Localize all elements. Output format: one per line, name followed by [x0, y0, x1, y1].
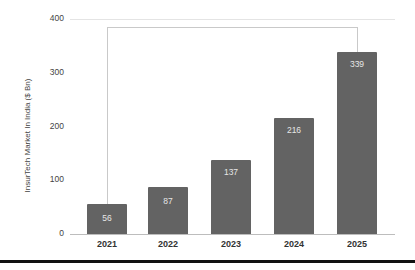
- bar-value-label: 216: [274, 125, 314, 135]
- bar-value-label: 137: [211, 167, 251, 177]
- bar-2023: 137: [211, 160, 251, 234]
- x-axis-line: [70, 234, 395, 235]
- y-tick-label: 0: [34, 228, 64, 238]
- x-tick-label: 2022: [143, 239, 193, 249]
- bracket-top: [107, 27, 358, 28]
- bar-value-label: 56: [87, 213, 127, 223]
- y-tick-label: 300: [34, 67, 64, 77]
- bar-2021: 56: [87, 204, 127, 234]
- bar-2022: 87: [148, 187, 188, 234]
- bar-value-label: 87: [148, 196, 188, 206]
- x-tick-label: 2021: [82, 239, 132, 249]
- bar-chart: InsurTech Market In India ($ Bn) 0100200…: [0, 0, 415, 270]
- x-tick-label: 2024: [269, 239, 319, 249]
- bar-value-label: 339: [337, 59, 377, 69]
- x-tick-label: 2025: [332, 239, 382, 249]
- bracket-left: [107, 27, 108, 204]
- y-tick-label: 200: [34, 121, 64, 131]
- y-tick-label: 400: [34, 13, 64, 23]
- y-axis-title: InsurTech Market In India ($ Bn): [23, 71, 32, 201]
- x-tick-label: 2023: [206, 239, 256, 249]
- y-tick-label: 100: [34, 174, 64, 184]
- bar-2024: 216: [274, 118, 314, 234]
- bar-2025: 339: [337, 52, 377, 234]
- gridline: [70, 19, 395, 20]
- bottom-rule: [0, 260, 415, 263]
- bracket-right: [357, 27, 358, 52]
